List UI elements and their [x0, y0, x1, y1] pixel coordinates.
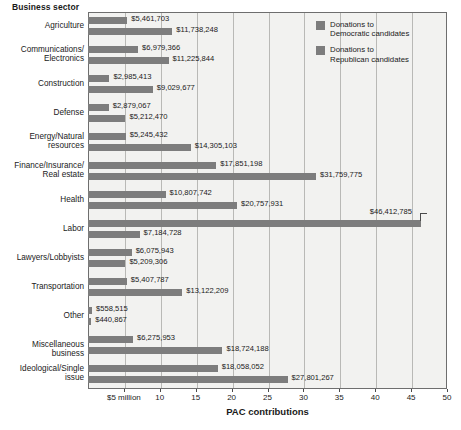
bar-rep-0: [88, 28, 172, 35]
x-tick-label-25: 25: [263, 393, 272, 402]
bar-group-2: $2,985,413$9,029,677: [88, 70, 447, 99]
y-axis-title: Business sector: [12, 2, 79, 12]
bar-group-9: $5,407,787$13,122,209: [88, 273, 447, 302]
legend-label-democratic-line2: Democratic candidates: [330, 29, 409, 38]
bar-dem-12: [88, 365, 218, 372]
bar-value-rep-5: $31,759,775: [320, 171, 362, 178]
bar-rep-10: [88, 318, 91, 325]
bar-value-rep-9: $13,122,209: [186, 287, 228, 294]
bar-group-3: $2,879,067$5,212,470: [88, 99, 447, 128]
bar-dem-7: [88, 220, 421, 227]
bar-dem-4: [88, 133, 126, 140]
bar-group-7: $46,412,785$7,184,728: [88, 215, 447, 244]
bar-value-dem-6: $10,807,742: [170, 189, 212, 196]
category-label-6: Health: [0, 195, 84, 205]
pac-contributions-chart: Business sector AgricultureCommunication…: [0, 0, 461, 430]
bar-rep-3: [88, 115, 125, 122]
bar-dem-5: [88, 162, 216, 169]
bar-value-dem-8: $6,075,943: [136, 247, 174, 254]
bar-value-rep-8: $5,209,306: [129, 258, 167, 265]
x-tick-mark-40: [375, 389, 376, 392]
bar-dem-1: [88, 46, 138, 53]
bar-dem-8: [88, 249, 132, 256]
bar-value-dem-2: $2,985,413: [113, 73, 151, 80]
bar-dem-3: [88, 104, 109, 111]
bar-value-dem-4: $5,245,432: [130, 131, 168, 138]
x-tick-mark-50: [447, 389, 448, 392]
bar-value-dem-11: $6,275,953: [137, 334, 175, 341]
bar-value-rep-3: $5,212,470: [129, 113, 167, 120]
x-tick-label-50: 50: [443, 393, 452, 402]
x-tick-label-30: 30: [299, 393, 308, 402]
bar-value-dem-0: $5,461,703: [131, 15, 169, 22]
bar-value-rep-10: $440,867: [95, 316, 127, 323]
x-tick-mark-5: [124, 389, 125, 392]
x-tick-mark-10: [160, 389, 161, 392]
legend-item-democratic: Donations to Democratic candidates: [316, 20, 444, 38]
bar-rep-4: [88, 144, 191, 151]
bar-dem-11: [88, 336, 133, 343]
x-tick-mark-20: [232, 389, 233, 392]
bar-group-11: $6,275,953$18,724,188: [88, 331, 447, 360]
x-tick-label-20: 20: [227, 393, 236, 402]
bar-value-dem-3: $2,879,067: [113, 102, 151, 109]
bar-rep-6: [88, 202, 237, 209]
x-tick-label-40: 40: [371, 393, 380, 402]
bar-group-5: $17,851,198$31,759,775: [88, 157, 447, 186]
bar-dem-9: [88, 278, 127, 285]
bar-group-12: $18,058,052$27,801,267: [88, 360, 447, 389]
bar-value-rep-2: $9,029,677: [157, 84, 195, 91]
bar-group-8: $6,075,943$5,209,306: [88, 244, 447, 273]
bar-value-rep-1: $11,225,844: [173, 55, 215, 62]
x-tick-mark-30: [303, 389, 304, 392]
legend-swatch-democratic-icon: [316, 21, 325, 30]
bar-rep-12: [88, 376, 288, 383]
bar-value-rep-0: $11,738,248: [176, 26, 218, 33]
bar-value-rep-7: $7,184,728: [144, 229, 182, 236]
legend-label-republican-line1: Donations to: [330, 45, 374, 54]
bar-value-dem-5: $17,851,198: [220, 160, 262, 167]
category-label-4: Energy/Naturalresources: [0, 132, 84, 151]
bar-rep-11: [88, 347, 222, 354]
bar-group-4: $5,245,432$14,305,103: [88, 128, 447, 157]
legend-swatch-republican-icon: [316, 46, 325, 55]
legend-label-democratic: Donations to Democratic candidates: [330, 20, 409, 38]
legend: Donations to Democratic candidates Donat…: [316, 20, 444, 71]
category-label-3: Defense: [0, 108, 84, 118]
category-label-1: Communications/Electronics: [0, 45, 84, 64]
legend-label-democratic-line1: Donations to: [330, 20, 374, 29]
bar-value-dem-7: $46,412,785: [370, 208, 412, 215]
category-label-7: Labor: [0, 224, 84, 234]
category-label-12: Ideological/Singleissue: [0, 364, 84, 383]
bar-value-leader-dem-7: [420, 213, 427, 221]
bar-rep-9: [88, 289, 182, 296]
bar-dem-6: [88, 191, 166, 198]
x-tick-mark-45: [411, 389, 412, 392]
x-tick-label-10: 10: [155, 393, 164, 402]
x-tick-label-35: 35: [335, 393, 344, 402]
bar-rep-7: [88, 231, 140, 238]
legend-item-republican: Donations to Republican candidates: [316, 45, 444, 63]
x-tick-mark-35: [339, 389, 340, 392]
x-tick-label-15: 15: [191, 393, 200, 402]
bar-rep-2: [88, 86, 153, 93]
category-axis-labels: AgricultureCommunications/ElectronicsCon…: [0, 12, 84, 389]
category-label-0: Agriculture: [0, 21, 84, 31]
legend-label-republican-line2: Republican candidates: [330, 55, 409, 64]
x-tick-mark-25: [268, 389, 269, 392]
category-label-10: Other: [0, 311, 84, 321]
bar-group-10: $558,515$440,867: [88, 302, 447, 331]
bar-dem-2: [88, 75, 109, 82]
legend-label-republican: Donations to Republican candidates: [330, 45, 409, 63]
x-tick-label-45: 45: [407, 393, 416, 402]
bar-value-dem-1: $6,979,366: [142, 44, 180, 51]
bar-value-rep-11: $18,724,188: [226, 345, 268, 352]
x-tick-mark-15: [196, 389, 197, 392]
bar-value-dem-9: $5,407,787: [131, 276, 169, 283]
bar-rep-8: [88, 260, 125, 267]
category-label-11: Miscellaneous business: [0, 340, 84, 359]
category-label-2: Construction: [0, 79, 84, 89]
bar-value-dem-10: $558,515: [96, 305, 128, 312]
bar-rep-1: [88, 57, 169, 64]
x-tick-label-5: $5 million: [107, 393, 141, 402]
